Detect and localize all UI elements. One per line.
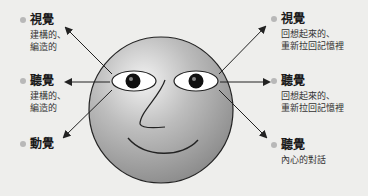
bullet-icon [20,141,26,147]
bullet-icon [20,78,26,84]
label-left-auditory: 聽覺 建構的、編造的 [20,74,66,114]
bullet-icon [271,142,277,148]
label-right-auditory: 聽覺 回想起來的、重新拉回記憶裡 [271,74,344,114]
label-right-internal-dialogue: 聽覺 內心的對話 [271,138,326,166]
right-eye-icon [174,71,218,91]
label-right-visual: 視覺 回想起來的、重新拉回記憶裡 [271,12,344,52]
face-icon [89,37,233,183]
bullet-icon [271,78,277,84]
label-left-visual: 視覺 建構的、編造的 [20,13,66,53]
label-left-kinesthetic: 動覺 [20,137,54,151]
bullet-icon [20,17,26,23]
bullet-icon [271,16,277,22]
left-eye-icon [112,71,156,91]
